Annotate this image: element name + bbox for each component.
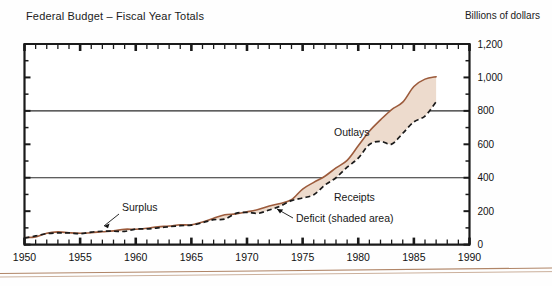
x-tick-label: 1965 (180, 251, 204, 263)
annotation-receipts: Receipts (334, 191, 375, 203)
chart-figure: Federal Budget – Fiscal Year Totals Bill… (0, 0, 552, 286)
y-tick-label: 800 (478, 105, 495, 116)
y-tick-label: 400 (478, 172, 495, 183)
x-tick-label: 1975 (291, 251, 315, 263)
y-tick-label: 200 (478, 206, 495, 217)
x-tick-label: 1970 (235, 251, 259, 263)
x-tick-label: 1960 (124, 251, 148, 263)
y-tick-label: 600 (478, 139, 495, 150)
outlays-label: Outlays (334, 126, 370, 138)
y-tick-label: 0 (478, 239, 484, 250)
x-tick-label: 1985 (402, 251, 426, 263)
y-tick-label: 1,000 (478, 72, 503, 83)
x-axis-tick-labels: 195019551960196519701975198019851990 (13, 251, 482, 263)
x-tick-label: 1955 (68, 251, 92, 263)
decorative-bottom-rule (0, 262, 552, 284)
federal-budget-plot: 02004006008001,0001,200 1950195519601965… (0, 0, 552, 286)
deficit-label: Deficit (shaded area) (296, 212, 393, 224)
annotation-outlays: Outlays (334, 126, 370, 138)
y-axis-tick-labels: 02004006008001,0001,200 (478, 39, 503, 251)
y-tick-label: 1,200 (478, 39, 503, 50)
x-tick-label: 1980 (347, 251, 371, 263)
receipts-label: Receipts (334, 191, 375, 203)
x-tick-label: 1990 (458, 251, 482, 263)
x-tick-label: 1950 (13, 251, 37, 263)
surplus-label: Surplus (122, 201, 158, 213)
plot-background (24, 43, 470, 245)
